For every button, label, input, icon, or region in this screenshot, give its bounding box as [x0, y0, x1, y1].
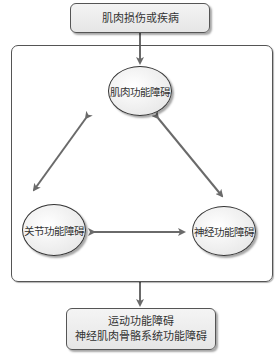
node-joint-dysfunction: 关节功能障碍 — [22, 204, 86, 256]
node-nerve-label: 神经功能障碍 — [194, 224, 254, 239]
node-joint-label: 关节功能障碍 — [24, 223, 84, 238]
node-muscle-dysfunction: 肌肉功能障碍 — [108, 66, 172, 116]
outcome-line-2: 神经肌肉骨骼系统功能障碍 — [75, 329, 207, 344]
node-nerve-dysfunction: 神经功能障碍 — [192, 206, 256, 256]
injury-box: 肌肉损伤或疾病 — [70, 3, 210, 33]
outcome-box: 运动功能障碍 神经肌肉骨骼系统功能障碍 — [66, 308, 216, 350]
injury-label: 肌肉损伤或疾病 — [102, 11, 179, 26]
node-muscle-label: 肌肉功能障碍 — [110, 84, 170, 99]
outcome-line-1: 运动功能障碍 — [108, 314, 174, 329]
